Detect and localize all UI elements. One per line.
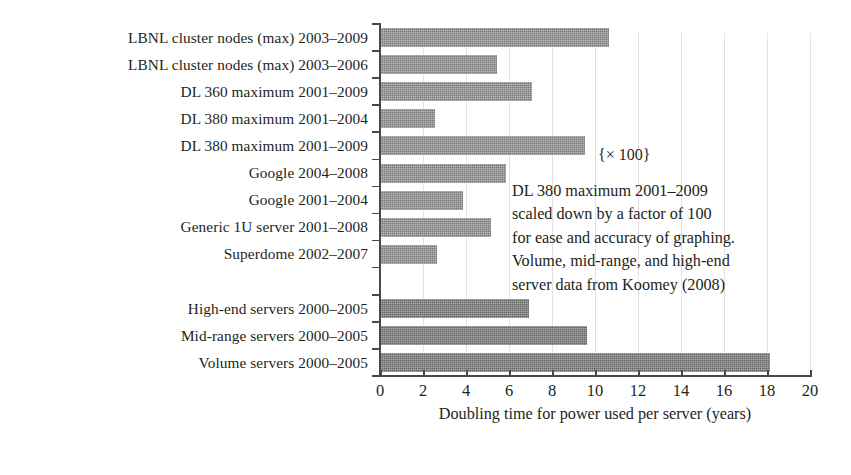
y-axis-tick (372, 348, 380, 350)
category-label-column: LBNL cluster nodes (max) 2003–2009LBNL c… (0, 23, 374, 375)
y-axis-tick (372, 213, 380, 215)
x-axis-tick (681, 370, 683, 377)
y-axis-tick (372, 267, 380, 269)
bar (381, 245, 437, 264)
x-axis-tick (466, 370, 468, 377)
y-axis-tick (372, 159, 380, 161)
bar (381, 28, 609, 47)
source-note-line-5: server data from Koomey (2008) (512, 274, 842, 297)
x-axis-tick-label: 2 (403, 381, 443, 401)
bar (381, 136, 585, 155)
bar (381, 164, 506, 183)
x-axis-tick (423, 370, 425, 377)
bar (381, 191, 463, 210)
category-label: DL 360 maximum 2001–2009 (0, 84, 368, 100)
x-axis-tick (552, 370, 554, 377)
category-label: DL 380 maximum 2001–2004 (0, 111, 368, 127)
x-axis-tick (595, 370, 597, 377)
y-axis-tick (372, 50, 380, 52)
x-axis-tick-label: 12 (618, 381, 658, 401)
x-axis-tick (810, 370, 812, 377)
y-axis-tick (372, 77, 380, 79)
x-axis-tick-label: 10 (575, 381, 615, 401)
source-note-annotation: DL 380 maximum 2001–2009 scaled down by … (512, 180, 842, 297)
x-axis-tick (767, 370, 769, 377)
bar (381, 326, 587, 345)
source-note-line-4: Volume, mid-range, and high-end (512, 250, 842, 273)
bar (381, 109, 435, 128)
category-label: High-end servers 2000–2005 (0, 301, 368, 317)
category-label: Generic 1U server 2001–2008 (0, 219, 368, 235)
x-axis-tick-label: 0 (360, 381, 400, 401)
y-axis-tick (372, 240, 380, 242)
y-axis-line (379, 23, 381, 376)
scale-multiplier-annotation: {× 100} (598, 145, 650, 165)
bar (381, 353, 770, 372)
category-label: Google 2001–2004 (0, 192, 368, 208)
source-note-line-1: DL 380 maximum 2001–2009 (512, 180, 842, 203)
bar (381, 82, 532, 101)
category-label: DL 380 maximum 2001–2009 (0, 138, 368, 154)
category-label: Volume servers 2000–2005 (0, 355, 368, 371)
bar-chart-figure: LBNL cluster nodes (max) 2003–2009LBNL c… (0, 0, 851, 475)
x-axis-tick-label: 16 (704, 381, 744, 401)
x-axis-tick-label: 6 (489, 381, 529, 401)
x-axis-title: Doubling time for power used per server … (380, 404, 810, 424)
bar (381, 55, 497, 74)
y-axis-tick (372, 131, 380, 133)
y-axis-tick (372, 321, 380, 323)
x-axis-tick (724, 370, 726, 377)
y-axis-tick (372, 186, 380, 188)
category-label: Mid-range servers 2000–2005 (0, 328, 368, 344)
y-axis-tick (372, 23, 380, 25)
x-axis-tick (509, 370, 511, 377)
x-axis-tick-label: 14 (661, 381, 701, 401)
y-axis-tick (372, 375, 380, 377)
source-note-line-2: scaled down by a factor of 100 (512, 203, 842, 226)
x-axis-tick-label: 18 (747, 381, 787, 401)
source-note-line-3: for ease and accuracy of graphing. (512, 227, 842, 250)
y-axis-tick (372, 294, 380, 296)
bar (381, 218, 491, 237)
x-axis-tick-label: 20 (790, 381, 830, 401)
x-axis-tick-label: 8 (532, 381, 572, 401)
x-axis-tick (380, 370, 382, 377)
category-label: Google 2004–2008 (0, 165, 368, 181)
y-axis-tick (372, 104, 380, 106)
bar (381, 299, 529, 318)
category-label: LBNL cluster nodes (max) 2003–2006 (0, 57, 368, 73)
category-label: LBNL cluster nodes (max) 2003–2009 (0, 30, 368, 46)
x-axis-tick (638, 370, 640, 377)
category-label: Superdome 2002–2007 (0, 246, 368, 262)
x-axis-tick-label: 4 (446, 381, 486, 401)
